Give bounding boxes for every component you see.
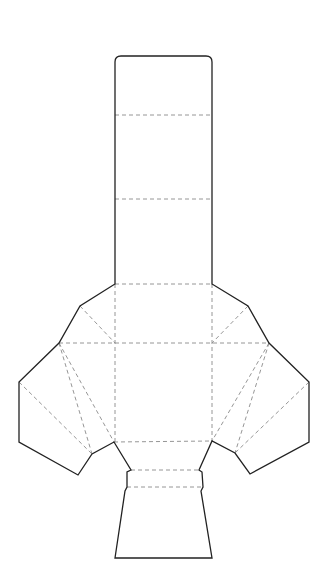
left-wing-diagonal-2: [59, 343, 114, 442]
body-fold-bottom: [114, 441, 212, 442]
right-wing-diagonal-2: [212, 343, 269, 441]
fold-lines: [19, 115, 309, 487]
cut-outline: [19, 56, 309, 558]
upper-right-diagonal: [212, 306, 248, 343]
papercraft-net-diagram: [0, 0, 333, 584]
upper-left-diagonal: [80, 306, 115, 343]
